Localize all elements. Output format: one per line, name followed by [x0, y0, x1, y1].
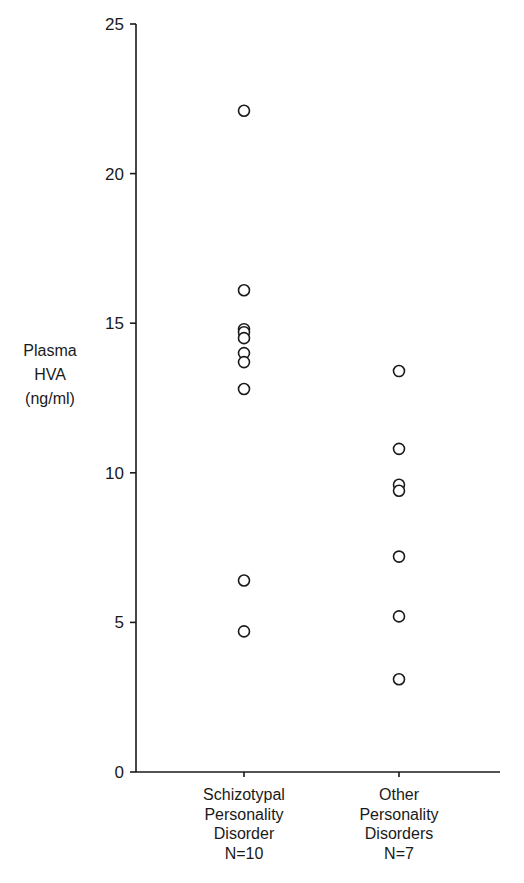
hva-dot-plot: 0510152025 PlasmaHVA(ng/ml) SchizotypalP…	[0, 0, 524, 883]
y-tick-label: 25	[105, 15, 124, 34]
y-tick-label: 20	[105, 165, 124, 184]
y-axis-title: PlasmaHVA(ng/ml)	[23, 342, 76, 407]
category-label-line: Personality	[359, 806, 438, 823]
data-point-circle	[239, 333, 250, 344]
data-point-circle	[239, 357, 250, 368]
y-axis-title-line: (ng/ml)	[25, 390, 75, 407]
data-point-circle	[394, 485, 405, 496]
x-axis	[136, 772, 500, 777]
y-tick-label: 5	[115, 613, 124, 632]
y-axis-title-line: HVA	[34, 366, 66, 383]
category-label-line: Personality	[204, 806, 283, 823]
data-points	[239, 105, 405, 684]
category-label-line: Disorders	[365, 825, 433, 842]
data-point-circle	[394, 366, 405, 377]
category-label-line: N=10	[225, 845, 264, 862]
data-point-circle	[239, 285, 250, 296]
y-axis: 0510152025	[105, 15, 136, 782]
y-tick-label: 0	[115, 763, 124, 782]
category-label-line: N=7	[384, 845, 414, 862]
category-labels: SchizotypalPersonalityDisorderN=10OtherP…	[203, 786, 438, 862]
data-point-circle	[239, 575, 250, 586]
data-point-circle	[394, 611, 405, 622]
data-point-circle	[239, 105, 250, 116]
category-label-line: Disorder	[214, 825, 275, 842]
data-point-circle	[239, 626, 250, 637]
y-tick-label: 15	[105, 314, 124, 333]
category-label-line: Other	[379, 786, 420, 803]
category-label-line: Schizotypal	[203, 786, 285, 803]
data-point-circle	[394, 443, 405, 454]
y-tick-label: 10	[105, 464, 124, 483]
data-point-circle	[394, 674, 405, 685]
data-point-circle	[239, 384, 250, 395]
y-axis-title-line: Plasma	[23, 342, 76, 359]
data-point-circle	[394, 551, 405, 562]
